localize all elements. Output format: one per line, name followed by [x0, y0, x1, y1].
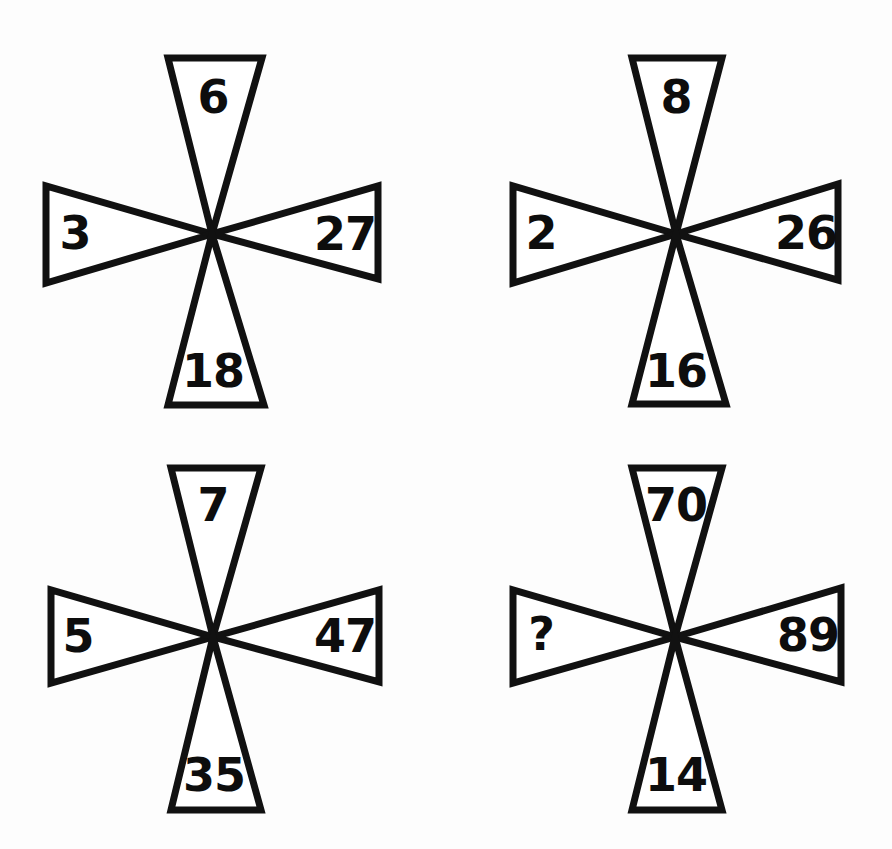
figure-4-right-value: 89 — [777, 608, 839, 662]
figure-2: 8 2 26 16 — [513, 58, 838, 404]
figure-3-right-value: 47 — [314, 609, 376, 663]
figure-4-missing-value: ? — [528, 607, 554, 661]
figure-2-left-value: 2 — [525, 206, 556, 260]
figure-1-right-value: 27 — [314, 207, 376, 261]
figure-3-bottom-value: 35 — [183, 748, 245, 802]
figure-1-left-value: 3 — [59, 206, 90, 260]
figure-1: 6 3 27 18 — [46, 58, 378, 405]
puzzle-canvas: 6 3 27 18 8 2 26 16 7 5 47 35 — [0, 0, 892, 849]
figure-2-top-value: 8 — [660, 70, 691, 124]
figure-2-right-value: 26 — [775, 206, 837, 260]
figure-2-bottom-value: 16 — [645, 344, 707, 398]
figure-1-bottom-value: 18 — [182, 344, 244, 398]
figure-4: 70 ? 89 14 — [513, 468, 841, 810]
puzzle-svg: 6 3 27 18 8 2 26 16 7 5 47 35 — [0, 0, 892, 849]
figure-4-top-value: 70 — [645, 478, 707, 532]
figure-1-top-value: 6 — [197, 70, 228, 124]
figure-3-left-value: 5 — [62, 609, 93, 663]
figure-3: 7 5 47 35 — [51, 468, 379, 810]
figure-3-top-value: 7 — [197, 478, 228, 532]
figure-4-bottom-value: 14 — [645, 748, 707, 802]
